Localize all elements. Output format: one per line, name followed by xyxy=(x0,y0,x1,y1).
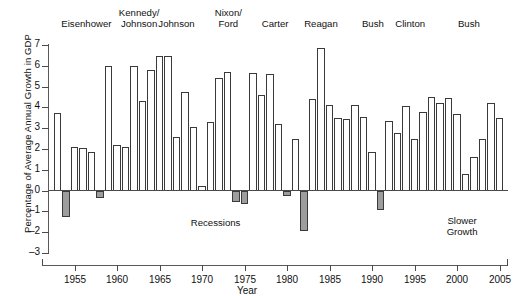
bar-growth xyxy=(351,105,358,190)
bar-growth xyxy=(402,106,409,190)
bar-growth xyxy=(275,124,282,191)
bar-growth xyxy=(487,103,494,190)
bar-growth xyxy=(139,101,146,190)
bar-growth xyxy=(156,56,163,190)
bar-growth xyxy=(258,95,265,191)
bar-growth xyxy=(113,145,120,191)
y-tick-mark xyxy=(42,191,49,192)
bar-growth xyxy=(394,133,401,190)
bar-growth xyxy=(453,114,460,191)
x-tick-label: 1955 xyxy=(55,274,95,285)
bar-growth xyxy=(190,127,197,190)
bar-growth xyxy=(147,70,154,191)
bar-growth xyxy=(79,148,86,191)
x-tick-label: 1995 xyxy=(395,274,435,285)
x-tick-mark xyxy=(500,265,501,271)
x-tick-label: 1975 xyxy=(225,274,265,285)
bar-growth xyxy=(317,48,324,190)
bar-growth xyxy=(130,66,137,191)
bar-growth xyxy=(360,117,367,191)
bar-growth xyxy=(164,56,171,190)
bar-growth xyxy=(207,122,214,191)
x-tick-label: 1960 xyxy=(97,274,137,285)
annotation-recessions: Recessions xyxy=(171,217,261,228)
y-tick-label: –2 xyxy=(0,225,40,236)
bar-growth xyxy=(215,78,222,190)
bar-growth xyxy=(122,147,129,191)
bar-growth xyxy=(436,103,443,190)
x-axis-end-cap xyxy=(507,259,508,266)
bar-growth xyxy=(334,118,341,191)
annotation-slower-growth: Slower Growth xyxy=(417,215,507,237)
bar-growth xyxy=(385,121,392,191)
y-tick-label: –3 xyxy=(0,246,40,257)
y-tick-label: 7 xyxy=(0,38,40,49)
y-tick-label: 4 xyxy=(0,100,40,111)
bar-growth xyxy=(266,74,273,190)
x-axis-title-text: Year xyxy=(237,285,257,296)
y-tick-mark xyxy=(42,87,49,88)
bar-recession xyxy=(62,191,69,217)
y-tick-mark xyxy=(42,170,49,171)
x-tick-mark xyxy=(245,265,246,271)
bar-recession xyxy=(96,191,103,198)
gdp-growth-bar-chart: Percentage of Average Annual Growth in G… xyxy=(0,0,514,296)
zero-baseline xyxy=(49,190,508,191)
x-tick-label: 2000 xyxy=(437,274,477,285)
x-tick-label: 1985 xyxy=(310,274,350,285)
bar-growth xyxy=(470,157,477,190)
bar-growth xyxy=(428,97,435,191)
x-tick-mark xyxy=(372,265,373,271)
x-tick-label: 1980 xyxy=(267,274,307,285)
y-tick-label: 6 xyxy=(0,59,40,70)
x-axis-title: Year xyxy=(0,285,514,296)
y-tick-mark xyxy=(42,232,49,233)
x-tick-label: 2005 xyxy=(480,274,514,285)
x-tick-mark xyxy=(202,265,203,271)
bar-recession xyxy=(283,191,290,196)
x-tick-label: 1970 xyxy=(182,274,222,285)
y-tick-mark xyxy=(42,253,49,254)
bar-growth xyxy=(419,112,426,191)
x-tick-mark xyxy=(160,265,161,271)
bar-recession xyxy=(300,191,307,232)
x-axis-line xyxy=(42,265,508,266)
y-tick-mark xyxy=(42,45,49,46)
bar-recession xyxy=(232,191,239,202)
x-tick-mark xyxy=(457,265,458,271)
y-tick-mark xyxy=(42,66,49,67)
bar-growth xyxy=(224,72,231,191)
bar-growth xyxy=(343,119,350,191)
bar-growth xyxy=(88,152,95,190)
y-tick-label: 0 xyxy=(0,184,40,195)
bar-growth xyxy=(368,152,375,190)
bar-growth xyxy=(249,73,256,191)
x-tick-mark xyxy=(287,265,288,271)
bar-recession xyxy=(241,191,248,205)
bar-growth xyxy=(411,139,418,191)
y-tick-mark xyxy=(42,107,49,108)
y-tick-label: 1 xyxy=(0,163,40,174)
x-tick-label: 1990 xyxy=(352,274,392,285)
bar-growth xyxy=(181,92,188,191)
x-tick-mark xyxy=(75,265,76,271)
bar-growth xyxy=(54,113,61,191)
bar-growth xyxy=(326,105,333,190)
bar-growth xyxy=(105,66,112,191)
x-axis-end-cap xyxy=(42,259,43,266)
bar-growth xyxy=(292,139,299,191)
y-tick-label: 2 xyxy=(0,142,40,153)
bar-growth xyxy=(173,137,180,191)
y-tick-label: –1 xyxy=(0,204,40,215)
y-axis-title: Percentage of Average Annual Growth in G… xyxy=(22,15,33,253)
bar-growth xyxy=(71,147,78,191)
y-tick-mark xyxy=(42,128,49,129)
y-tick-label: 3 xyxy=(0,121,40,132)
y-tick-label: 5 xyxy=(0,80,40,91)
x-tick-label: 1965 xyxy=(140,274,180,285)
bar-growth xyxy=(309,99,316,191)
y-tick-mark xyxy=(42,211,49,212)
y-tick-mark xyxy=(42,149,49,150)
bar-growth xyxy=(445,98,452,191)
bar-recession xyxy=(377,191,384,211)
